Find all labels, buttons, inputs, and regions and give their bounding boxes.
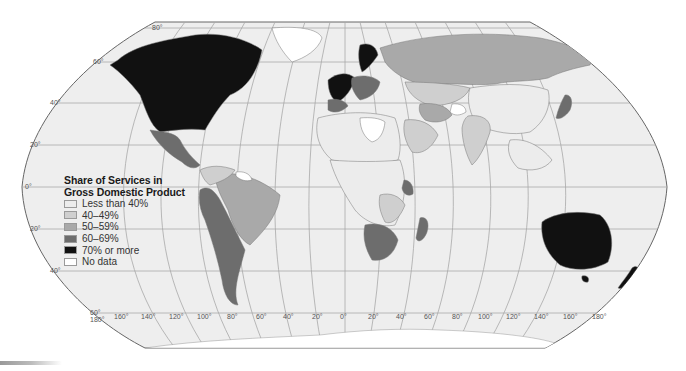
legend-item-70-plus: 70% or more — [64, 244, 214, 256]
lon-label-180w: 180° — [90, 316, 105, 323]
lon-label-60w: 60° — [256, 313, 267, 320]
lat-label-20n: 20° — [30, 141, 41, 148]
horizontal-scrollbar[interactable] — [0, 361, 62, 365]
region-north-africa — [317, 113, 400, 164]
lon-label-40w: 40° — [283, 313, 294, 320]
lon-label-80e: 80° — [452, 313, 463, 320]
legend-swatch-50-59 — [64, 223, 77, 231]
lon-label-160w: 160° — [114, 313, 129, 320]
lon-label-120e: 120° — [506, 313, 521, 320]
legend-title-line1: Share of Services in — [64, 175, 214, 187]
legend-label: Less than 40% — [82, 198, 148, 209]
legend-label: 60–69% — [82, 233, 119, 244]
legend-swatch-70-plus — [64, 246, 77, 254]
lon-label-100w: 100° — [197, 313, 212, 320]
lon-label-60e: 60° — [424, 313, 435, 320]
lon-label-100e: 100° — [478, 313, 493, 320]
lon-label-80w: 80° — [227, 313, 238, 320]
map-legend: Share of Services in Gross Domestic Prod… — [64, 175, 214, 268]
legend-item-lt40: Less than 40% — [64, 198, 214, 210]
legend-swatch-40-49 — [64, 211, 77, 219]
legend-title-line2: Gross Domestic Product — [64, 187, 214, 199]
legend-swatch-60-69 — [64, 235, 77, 243]
legend-label: 50–59% — [82, 221, 119, 232]
lon-label-120w: 120° — [169, 313, 184, 320]
legend-label: No data — [82, 256, 117, 267]
lat-label-0: 0° — [25, 183, 32, 190]
lat-label-80: 80° — [152, 24, 163, 31]
legend-item-40-49: 40–49% — [64, 210, 214, 222]
lon-label-40e: 40° — [396, 313, 407, 320]
legend-label: 70% or more — [82, 245, 139, 256]
legend-swatch-no-data — [64, 258, 77, 266]
legend-item-50-59: 50–59% — [64, 221, 214, 233]
lon-label-20e: 20° — [368, 313, 379, 320]
lon-label-180e: 180° — [592, 313, 607, 320]
lon-label-20w: 20° — [312, 313, 323, 320]
lat-label-20s: 20° — [30, 225, 41, 232]
lat-label-60n: 60° — [93, 58, 104, 65]
lon-label-140e: 140° — [534, 313, 549, 320]
lon-label-160e: 160° — [563, 313, 578, 320]
legend-item-60-69: 60–69% — [64, 233, 214, 245]
lon-label-140w: 140° — [141, 313, 156, 320]
legend-swatch-lt40 — [64, 200, 77, 208]
lon-label-0: 0° — [340, 313, 347, 320]
lat-label-40s: 40° — [50, 267, 61, 274]
lat-label-40n: 40° — [50, 99, 61, 106]
world-map-figure: 80° 60° 40° 20° 0° 20° 40° 60° 180° 160°… — [0, 0, 686, 371]
legend-label: 40–49% — [82, 210, 119, 221]
lat-label-60s: 60° — [90, 309, 101, 316]
legend-item-no-data: No data — [64, 256, 214, 268]
